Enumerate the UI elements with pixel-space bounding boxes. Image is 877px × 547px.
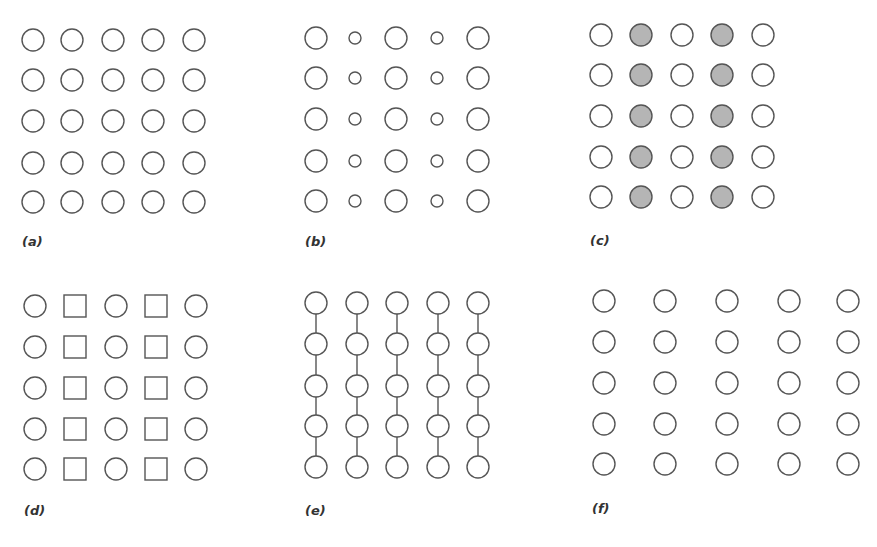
circle-element: [752, 146, 774, 168]
circle-element: [431, 155, 443, 167]
circle-element: [590, 24, 612, 46]
circle-element: [305, 333, 327, 355]
circle-element: [385, 150, 407, 172]
filled-circle-element: [711, 105, 733, 127]
circle-element: [386, 415, 408, 437]
circle-element: [305, 27, 327, 49]
circle-element: [305, 415, 327, 437]
filled-circle-element: [630, 64, 652, 86]
circle-element: [183, 29, 205, 51]
circle-element: [305, 190, 327, 212]
circle-element: [142, 152, 164, 174]
circle-element: [105, 418, 127, 440]
circle-element: [105, 336, 127, 358]
circle-element: [837, 413, 859, 435]
circle-element: [142, 29, 164, 51]
circle-element: [22, 110, 44, 132]
circle-element: [349, 155, 361, 167]
square-element: [64, 418, 86, 440]
circle-element: [671, 146, 693, 168]
square-element: [145, 418, 167, 440]
circle-element: [467, 415, 489, 437]
panel-a: (a): [22, 29, 205, 249]
circle-element: [102, 69, 124, 91]
filled-circle-element: [711, 146, 733, 168]
filled-circle-element: [711, 24, 733, 46]
filled-circle-element: [630, 24, 652, 46]
circle-element: [22, 152, 44, 174]
square-element: [64, 295, 86, 317]
circle-element: [716, 453, 738, 475]
circle-element: [427, 456, 449, 478]
circle-element: [105, 377, 127, 399]
circle-element: [102, 29, 124, 51]
panel-label: (f): [592, 501, 610, 516]
square-element: [64, 336, 86, 358]
circle-element: [778, 372, 800, 394]
circle-element: [61, 152, 83, 174]
circle-element: [593, 453, 615, 475]
circle-element: [61, 29, 83, 51]
square-element: [145, 295, 167, 317]
circle-element: [467, 67, 489, 89]
circle-element: [837, 290, 859, 312]
circle-element: [305, 456, 327, 478]
circle-element: [467, 108, 489, 130]
circle-element: [654, 372, 676, 394]
panel-c: (c): [590, 24, 774, 248]
square-element: [64, 377, 86, 399]
circle-element: [102, 110, 124, 132]
circle-element: [837, 331, 859, 353]
circle-element: [716, 331, 738, 353]
circle-element: [431, 113, 443, 125]
circle-element: [778, 413, 800, 435]
circle-element: [102, 191, 124, 213]
circle-element: [671, 24, 693, 46]
gestalt-grouping-figure: (a) (b) (c) (d) (e) (f): [0, 0, 877, 547]
circle-element: [590, 146, 612, 168]
circle-element: [305, 67, 327, 89]
circle-element: [654, 290, 676, 312]
circle-element: [346, 456, 368, 478]
circle-element: [778, 453, 800, 475]
circle-element: [716, 372, 738, 394]
circle-element: [385, 190, 407, 212]
circle-element: [671, 186, 693, 208]
circle-element: [61, 191, 83, 213]
circle-element: [305, 150, 327, 172]
circle-element: [61, 69, 83, 91]
circle-element: [427, 415, 449, 437]
panel-label: (d): [24, 503, 45, 518]
circle-element: [654, 331, 676, 353]
circle-element: [349, 113, 361, 125]
circle-element: [467, 375, 489, 397]
panel-label: (c): [590, 233, 610, 248]
circle-element: [590, 186, 612, 208]
circle-element: [778, 290, 800, 312]
circle-element: [346, 415, 368, 437]
circle-element: [752, 105, 774, 127]
circle-element: [22, 69, 44, 91]
panel-d: (d): [24, 295, 207, 518]
circle-element: [24, 336, 46, 358]
circle-element: [386, 333, 408, 355]
circle-element: [24, 377, 46, 399]
circle-element: [349, 32, 361, 44]
circle-element: [716, 290, 738, 312]
panel-label: (b): [305, 234, 326, 249]
circle-element: [305, 108, 327, 130]
circle-element: [431, 72, 443, 84]
circle-element: [752, 24, 774, 46]
circle-element: [24, 295, 46, 317]
circle-element: [183, 152, 205, 174]
circle-element: [183, 191, 205, 213]
circle-element: [24, 418, 46, 440]
circle-element: [467, 190, 489, 212]
panel-label: (e): [305, 503, 326, 518]
square-element: [145, 377, 167, 399]
circle-element: [593, 290, 615, 312]
circle-element: [185, 418, 207, 440]
circle-element: [183, 110, 205, 132]
circle-element: [349, 72, 361, 84]
circle-element: [837, 372, 859, 394]
